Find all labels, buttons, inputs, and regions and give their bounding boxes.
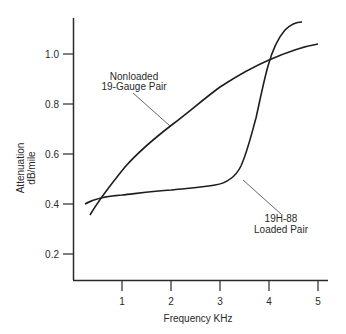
x-tick-label-4: 4 xyxy=(266,296,272,307)
annotation-loaded-line1: 19H-88 xyxy=(265,213,298,224)
y-tick-label-0.4: 0.4 xyxy=(45,199,59,210)
y-axis-label-line1: Attenuation xyxy=(15,143,26,194)
x-tick-label-1: 1 xyxy=(119,296,125,307)
x-tick-label-3: 3 xyxy=(217,296,223,307)
y-tick-label-0.2: 0.2 xyxy=(45,249,59,260)
series-nonloaded-19-gauge-pair xyxy=(90,44,318,215)
annotation-loaded-line2: Loaded Pair xyxy=(254,224,309,235)
x-axis-label: Frequency KHz xyxy=(164,313,233,324)
annotation-leader-loaded xyxy=(243,180,281,214)
y-tick-label-1.0: 1.0 xyxy=(45,49,59,60)
x-ticks xyxy=(122,281,318,291)
annotation-leader-nonloaded xyxy=(133,93,170,126)
y-ticks xyxy=(63,54,73,254)
x-tick-label-5: 5 xyxy=(315,296,321,307)
y-axis-label-line2: dB/mile xyxy=(26,151,37,185)
annotation-nonloaded-line2: 19-Gauge Pair xyxy=(101,81,167,92)
x-tick-label-2: 2 xyxy=(168,296,174,307)
chart-canvas: 1.0 0.8 0.6 0.4 0.2 1 2 3 4 5 Frequency … xyxy=(0,0,346,334)
y-tick-label-0.8: 0.8 xyxy=(45,99,59,110)
y-tick-label-0.6: 0.6 xyxy=(45,149,59,160)
